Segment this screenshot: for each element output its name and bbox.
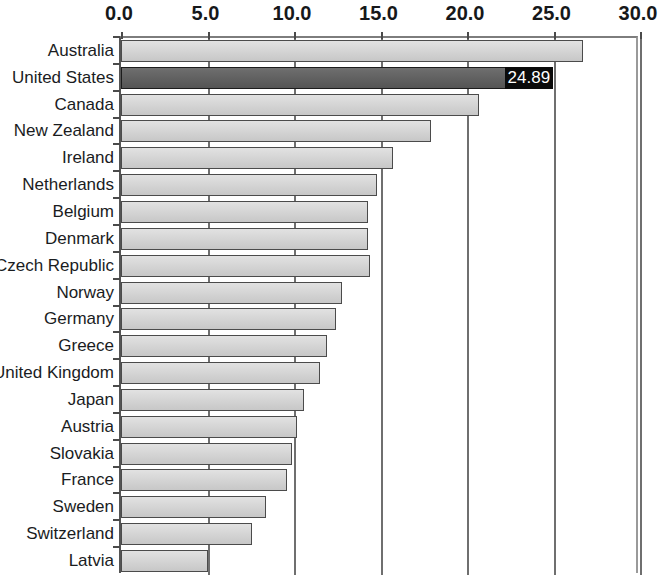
y-tick-mark-14 — [113, 412, 120, 414]
bar-row: Austria — [0, 412, 662, 442]
category-label-15: Slovakia — [50, 444, 114, 464]
y-tick-mark-12 — [113, 358, 120, 360]
y-tick-mark-5 — [113, 170, 120, 172]
y-tick-mark-1 — [113, 63, 120, 65]
category-label-0: Australia — [48, 41, 114, 61]
bar-row: Netherlands — [0, 170, 662, 200]
bar-row: Canada — [0, 90, 662, 120]
x-tick-label-5: 25.0 — [532, 2, 571, 25]
category-label-18: Switzerland — [26, 524, 114, 544]
bar-6[interactable] — [121, 201, 368, 223]
y-tick-mark-0 — [113, 36, 120, 38]
x-tick-label-0: 0.0 — [105, 2, 133, 25]
bar-16[interactable] — [121, 469, 287, 491]
y-tick-mark-17 — [113, 492, 120, 494]
y-tick-mark-6 — [113, 197, 120, 199]
bar-7[interactable] — [121, 228, 368, 250]
category-label-8: Czech Republic — [0, 256, 114, 276]
x-tick-label-3: 15.0 — [359, 2, 398, 25]
bar-2[interactable] — [121, 94, 479, 116]
category-label-9: Norway — [56, 283, 114, 303]
y-tick-mark-13 — [113, 385, 120, 387]
y-tick-mark-19 — [113, 546, 120, 548]
category-label-5: Netherlands — [22, 175, 114, 195]
bar-1[interactable] — [121, 67, 552, 89]
bar-row: Greece — [0, 331, 662, 361]
category-label-4: Ireland — [62, 148, 114, 168]
bar-8[interactable] — [121, 255, 370, 277]
bar-14[interactable] — [121, 416, 297, 438]
bar-13[interactable] — [121, 389, 304, 411]
category-label-19: Latvia — [69, 551, 114, 571]
bar-4[interactable] — [121, 147, 393, 169]
bar-row: Belgium — [0, 197, 662, 227]
x-tick-label-4: 20.0 — [446, 2, 485, 25]
bar-row: Ireland — [0, 143, 662, 173]
category-label-14: Austria — [61, 417, 114, 437]
bar-row: Japan — [0, 385, 662, 415]
bar-row: Norway — [0, 278, 662, 308]
y-tick-mark-10 — [113, 305, 120, 307]
bar-row: United Kingdom — [0, 358, 662, 388]
bar-18[interactable] — [121, 523, 252, 545]
y-tick-mark-18 — [113, 519, 120, 521]
bar-3[interactable] — [121, 120, 431, 142]
bar-row: Czech Republic — [0, 251, 662, 281]
x-tick-label-6: 30.0 — [619, 2, 658, 25]
category-label-11: Greece — [58, 336, 114, 356]
bar-row: Australia — [0, 36, 662, 66]
y-tick-mark-9 — [113, 278, 120, 280]
category-label-7: Denmark — [45, 229, 114, 249]
category-label-1: United States — [12, 68, 114, 88]
y-tick-mark-7 — [113, 224, 120, 226]
x-tick-label-1: 5.0 — [192, 2, 220, 25]
bar-row: Denmark — [0, 224, 662, 254]
x-axis-tick-labels: 0.05.010.015.020.025.030.0 — [0, 0, 662, 32]
category-label-13: Japan — [68, 390, 114, 410]
bar-value-label: 24.89 — [505, 67, 554, 89]
y-tick-mark-8 — [113, 251, 120, 253]
bar-row: Germany — [0, 305, 662, 335]
bar-11[interactable] — [121, 335, 327, 357]
category-label-3: New Zealand — [14, 121, 114, 141]
bar-5[interactable] — [121, 174, 377, 196]
bar-row: Slovakia — [0, 439, 662, 469]
bar-row: France — [0, 466, 662, 496]
category-label-10: Germany — [44, 309, 114, 329]
bar-10[interactable] — [121, 308, 336, 330]
category-label-12: United Kingdom — [0, 363, 114, 383]
bar-row: New Zealand — [0, 117, 662, 147]
y-tick-mark-3 — [113, 117, 120, 119]
y-tick-mark-15 — [113, 439, 120, 441]
category-label-6: Belgium — [53, 202, 114, 222]
y-tick-mark-11 — [113, 331, 120, 333]
bar-19[interactable] — [121, 550, 208, 572]
x-tick-label-2: 10.0 — [273, 2, 312, 25]
bar-row: United States24.89 — [0, 63, 662, 93]
bar-row: Sweden — [0, 492, 662, 522]
category-label-16: France — [61, 470, 114, 490]
bar-12[interactable] — [121, 362, 320, 384]
category-label-17: Sweden — [53, 497, 114, 517]
bar-0[interactable] — [121, 40, 583, 62]
bar-row: Latvia — [0, 546, 662, 576]
bar-17[interactable] — [121, 496, 266, 518]
y-tick-mark-2 — [113, 90, 120, 92]
bar-9[interactable] — [121, 282, 342, 304]
bar-15[interactable] — [121, 443, 292, 465]
bar-row: Switzerland — [0, 519, 662, 549]
y-tick-mark-16 — [113, 466, 120, 468]
y-tick-mark-4 — [113, 143, 120, 145]
bar-rows: AustraliaUnited States24.89CanadaNew Zea… — [0, 36, 662, 573]
category-label-2: Canada — [54, 95, 114, 115]
